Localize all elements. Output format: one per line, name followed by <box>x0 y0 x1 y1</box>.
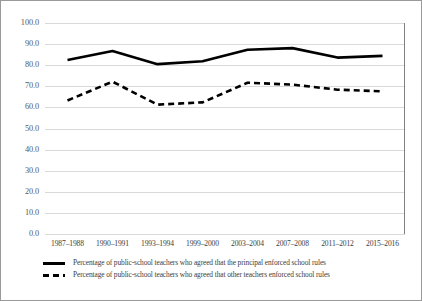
plot-area <box>45 23 405 234</box>
x-axis-tick-label: 1990–1991 <box>90 239 135 253</box>
legend-label-principal: Percentage of public-school teachers who… <box>73 258 326 268</box>
x-axis-tick-label: 2003–2004 <box>225 239 270 253</box>
x-axis-tick-label: 1987–1988 <box>45 239 90 253</box>
dashed-line-marker <box>41 270 67 280</box>
y-axis-tick-label: 40.0 <box>0 146 39 154</box>
x-axis-tick-label: 2011–2012 <box>315 239 360 253</box>
series-layer <box>45 23 405 234</box>
y-axis-tick-label: 0.0 <box>0 230 39 238</box>
y-axis-tick-label: 10.0 <box>0 209 39 217</box>
x-axis-tick-label: 1993–1994 <box>135 239 180 253</box>
y-axis-tick-label: 80.0 <box>0 61 39 69</box>
solid-line-marker <box>41 258 67 268</box>
y-axis-tick-label: 70.0 <box>0 82 39 90</box>
chart-figure: 100.090.080.070.060.050.040.030.020.010.… <box>0 0 422 301</box>
chart-legend: Percentage of public-school teachers who… <box>41 257 401 281</box>
x-axis-tick-label: 1999–2000 <box>180 239 225 253</box>
series-line-other-teachers <box>68 82 383 105</box>
y-axis-tick-label: 20.0 <box>0 188 39 196</box>
y-axis-tick-label: 90.0 <box>0 40 39 48</box>
gridline <box>45 234 405 235</box>
y-axis-tick-label: 30.0 <box>0 167 39 175</box>
y-axis-tick-label: 100.0 <box>0 19 39 27</box>
series-line-principal <box>68 48 383 64</box>
x-axis-tick-label: 2015–2016 <box>360 239 405 253</box>
x-axis-tick-label: 2007–2008 <box>270 239 315 253</box>
legend-item-principal: Percentage of public-school teachers who… <box>41 257 401 269</box>
legend-item-other-teachers: Percentage of public-school teachers who… <box>41 269 401 281</box>
y-axis-tick-label: 50.0 <box>0 125 39 133</box>
y-axis-tick-label: 60.0 <box>0 103 39 111</box>
legend-label-other-teachers: Percentage of public-school teachers who… <box>73 270 330 280</box>
x-axis-tick-labels: 1987–19881990–19911993–19941999–20002003… <box>45 239 405 253</box>
